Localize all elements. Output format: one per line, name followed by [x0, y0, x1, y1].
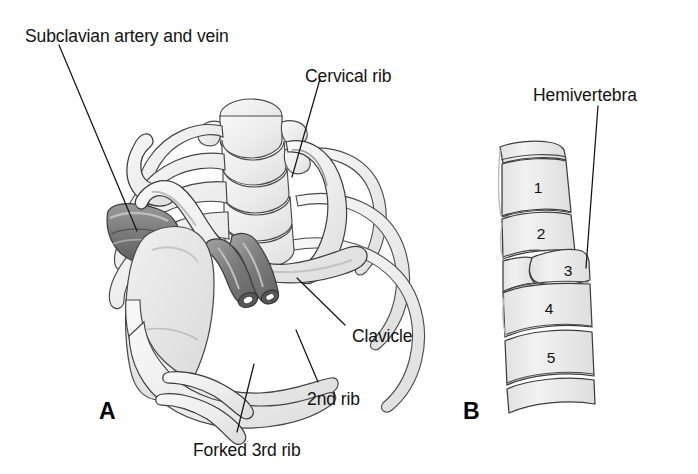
vertebra-partial-bottom — [507, 378, 595, 413]
leader-clavicle — [297, 278, 345, 325]
vertebra-number-2: 2 — [537, 225, 546, 242]
leader-subclavian — [59, 45, 137, 231]
panel-letter-a: A — [99, 400, 116, 423]
label-subclavian-artery-and-vein: Subclavian artery and vein — [25, 28, 229, 46]
vertebra-number-3: 3 — [564, 262, 573, 279]
vertebra-number-4: 4 — [545, 300, 554, 317]
panel-b-artwork: 1 2 3 4 5 — [499, 106, 598, 413]
vertebra-number-5: 5 — [547, 349, 556, 366]
vertebra-number-1: 1 — [534, 179, 543, 196]
leader-hemivertebra — [586, 106, 598, 268]
leader-2nd-rib — [296, 330, 318, 382]
panel-a-artwork — [59, 45, 424, 444]
vertebra-3-hemivertebra — [529, 249, 590, 284]
label-hemivertebra: Hemivertebra — [533, 87, 637, 105]
label-2nd-rib: 2nd rib — [307, 391, 360, 409]
panel-letter-b: B — [463, 400, 480, 423]
label-cervical-rib: Cervical rib — [305, 68, 391, 86]
anatomical-figure: 1 2 3 4 5 Subclavian artery and vein Cer… — [0, 0, 698, 474]
leader-lines-b — [586, 106, 598, 268]
label-forked-3rd-rib: Forked 3rd rib — [193, 442, 301, 460]
label-clavicle: Clavicle — [352, 328, 412, 346]
vertebra-c1-body — [220, 116, 282, 158]
